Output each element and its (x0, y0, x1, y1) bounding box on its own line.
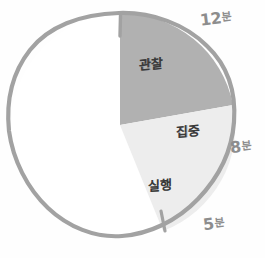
pie-value-execution: 5분 (202, 213, 225, 234)
pie-chart-figure: 관찰 집중 실행 12분 8분 5분 (0, 0, 265, 258)
pie-value-observation-number: 12 (199, 8, 222, 29)
pie-value-focus: 8분 (229, 136, 252, 157)
pie-label-execution: 실행 (148, 174, 171, 195)
pie-value-execution-unit: 분 (213, 216, 224, 230)
pie-chart-canvas (0, 0, 265, 258)
pie-label-observation: 관찰 (139, 53, 162, 74)
pie-value-observation: 12분 (199, 7, 232, 30)
pie-value-observation-unit: 분 (221, 10, 232, 24)
pie-value-focus-unit: 분 (240, 139, 251, 153)
pie-label-focus: 집중 (176, 120, 199, 141)
pie-boundary-top (120, 15, 121, 36)
